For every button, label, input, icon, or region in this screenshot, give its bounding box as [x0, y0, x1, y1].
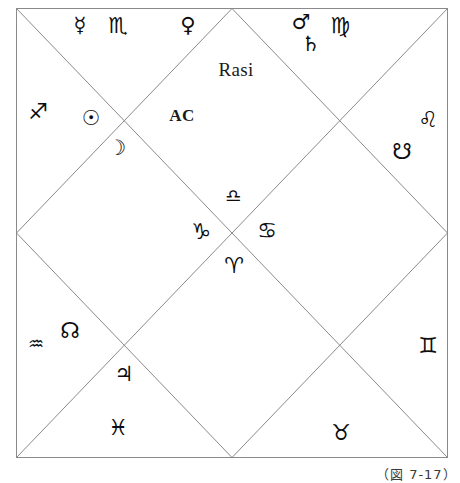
ascendant-label: AC: [169, 106, 194, 126]
sign-virgo-icon: ♍: [330, 15, 350, 37]
sign-pisces-icon: ♓: [108, 417, 128, 439]
planet-venus-icon: ♀: [180, 15, 195, 36]
planet-moon-icon: ☽: [108, 138, 127, 159]
planet-mercury-icon: ☿: [74, 15, 87, 36]
chart-title: Rasi: [219, 59, 254, 81]
sign-gemini-icon: ♊: [418, 335, 438, 357]
planet-saturn-icon: ♄: [302, 34, 321, 55]
sign-aquarius-icon: ♒: [28, 335, 44, 353]
sign-taurus-icon: ♉: [331, 422, 351, 444]
planet-jupiter-icon: ♃: [115, 364, 134, 385]
rasi-chart-figure: Rasi AC ♏ ♍ ♐ ♌ ♎ ♑ ♋ ♈ ♒ ♊ ♓ ♉ ☿ ♀ ♂ ♄ …: [0, 0, 460, 483]
sign-scorpio-icon: ♏: [108, 15, 128, 37]
sign-aries-icon: ♈: [224, 255, 244, 277]
sign-cancer-icon: ♋: [257, 220, 277, 242]
sign-libra-icon: ♎: [225, 187, 241, 205]
sign-sagittarius-icon: ♐: [28, 101, 48, 123]
node-rahu-icon: ☊: [60, 320, 80, 342]
sign-capricorn-icon: ♑: [191, 221, 211, 243]
node-ketu-icon: ☋: [392, 141, 412, 163]
planet-mars-icon: ♂: [292, 12, 311, 33]
sign-leo-icon: ♌: [418, 109, 438, 131]
figure-caption: （図 7-17）: [376, 464, 457, 483]
planet-sun-icon: ☉: [82, 108, 101, 129]
